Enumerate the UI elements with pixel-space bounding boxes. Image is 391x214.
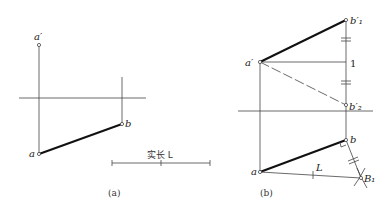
segment-ab (39, 124, 122, 154)
caption-b: (b) (260, 188, 273, 198)
label-b1-prime: b′₁ (350, 15, 363, 26)
point-a-b (258, 170, 261, 173)
dashed-a-prime-to-b2 (260, 62, 346, 105)
segment-ab-b (260, 140, 346, 172)
point-b (120, 122, 123, 125)
point-b-b (344, 138, 347, 141)
figure-a (19, 43, 210, 166)
point-a (37, 152, 40, 155)
label-a-prime: a′ (34, 31, 43, 42)
label-b2-prime: b′₂ (349, 101, 362, 112)
label-b: b (125, 118, 131, 129)
label-a-b: a (251, 166, 257, 177)
label-B1: B₁ (363, 173, 375, 184)
segment-a-prime-b1-prime (260, 20, 346, 62)
line-a-to-B1 (260, 172, 361, 178)
true-length-label: 实长 L (147, 149, 173, 160)
label-L: L (315, 162, 323, 173)
point-a-prime-b (258, 60, 261, 63)
caption-a: (a) (108, 188, 120, 198)
projection-diagram: a′ a b 实长 L (a) a′ b′₁ 1 (0, 0, 391, 214)
label-b-b: b (350, 134, 356, 145)
label-a: a (29, 148, 35, 159)
point-b2-prime (344, 103, 347, 106)
point-B1 (359, 176, 362, 179)
label-a-prime-b: a′ (245, 57, 254, 68)
label-one: 1 (350, 58, 356, 69)
point-b1-prime (344, 18, 347, 21)
point-a-prime (37, 43, 40, 46)
